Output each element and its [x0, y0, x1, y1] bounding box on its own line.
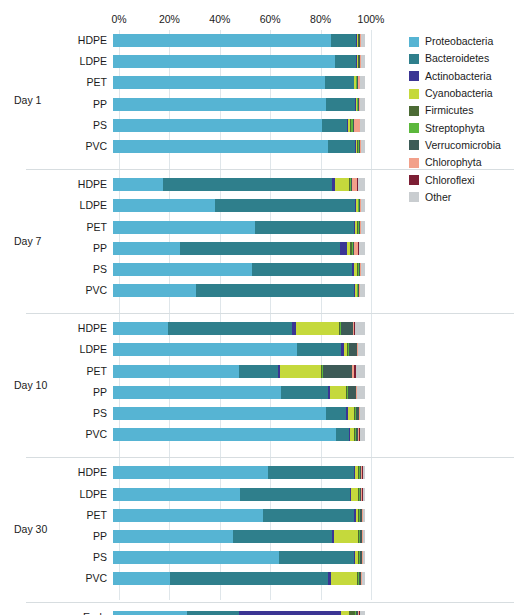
- chart-row: HDPE: [0, 322, 522, 335]
- bar-segment: [113, 407, 326, 420]
- row-label: PET: [0, 76, 113, 89]
- x-tick-label: 60%: [260, 13, 281, 25]
- chart-row: PET: [0, 365, 522, 378]
- bar-segment: [240, 488, 350, 501]
- bar-segment: [341, 611, 349, 615]
- bar-segment: [297, 343, 341, 356]
- legend-label: Verrucomicrobia: [425, 140, 501, 151]
- stacked-bar: [113, 242, 365, 255]
- bar-segment: [326, 407, 346, 420]
- chart-group: HDPELDPEPETPPPSPVCDay 10: [0, 313, 522, 457]
- legend-label: Other: [425, 192, 451, 203]
- bar-segment: [113, 611, 187, 615]
- bar-segment: [113, 428, 336, 441]
- legend-item[interactable]: Verrucomicrobia: [409, 137, 519, 154]
- legend-item[interactable]: Actinobacteria: [409, 68, 519, 85]
- bar-segment: [187, 611, 239, 615]
- bar-segment: [363, 530, 365, 543]
- bar-segment: [356, 365, 365, 378]
- bar-segment: [341, 322, 353, 335]
- stacked-bar: [113, 386, 365, 399]
- legend-swatch-icon: [409, 89, 419, 99]
- legend-item[interactable]: Firmicutes: [409, 102, 519, 119]
- row-label: PVC: [0, 428, 113, 441]
- stacked-bar: [113, 365, 365, 378]
- bar-segment: [239, 365, 278, 378]
- bar-segment: [323, 365, 352, 378]
- row-label: PVC: [0, 572, 113, 585]
- row-label: PET: [0, 365, 113, 378]
- bar-segment: [113, 140, 328, 153]
- bar-segment: [361, 221, 365, 234]
- bar-segment: [196, 284, 354, 297]
- bar-segment: [326, 98, 355, 111]
- x-axis: 0%20%40%60%80%100%: [0, 0, 522, 30]
- chart-row: PS: [0, 263, 522, 276]
- x-tick-label: 40%: [209, 13, 230, 25]
- stacked-bar: [113, 34, 365, 47]
- legend-swatch-icon: [409, 106, 419, 116]
- chart-row: HDPE: [0, 466, 522, 479]
- bar-segment: [322, 119, 347, 132]
- bar-segment: [113, 98, 326, 111]
- bar-segment: [233, 530, 333, 543]
- legend-item[interactable]: Other: [409, 189, 519, 206]
- row-label: LDPE: [0, 343, 113, 356]
- chart-legend: ProteobacteriaBacteroidetesActinobacteri…: [409, 33, 519, 206]
- chart-row: PP: [0, 530, 522, 543]
- bar-segment: [113, 242, 180, 255]
- legend-item[interactable]: Chlorophyta: [409, 154, 519, 171]
- legend-swatch-icon: [409, 37, 419, 47]
- bar-segment: [113, 284, 196, 297]
- stacked-bar: [113, 407, 365, 420]
- bar-segment: [334, 530, 358, 543]
- bar-segment: [330, 386, 346, 399]
- x-tick-label: 80%: [310, 13, 331, 25]
- chart-row: PP: [0, 386, 522, 399]
- bar-segment: [113, 221, 255, 234]
- chart-row: PP: [0, 242, 522, 255]
- bar-segment: [268, 466, 354, 479]
- chart-row: Early: [0, 611, 522, 615]
- bar-segment: [170, 572, 329, 585]
- stacked-bar: [113, 140, 365, 153]
- bar-segment: [340, 242, 348, 255]
- legend-label: Firmicutes: [425, 105, 473, 116]
- bar-segment: [360, 428, 365, 441]
- row-label: HDPE: [0, 322, 113, 335]
- row-label: PS: [0, 407, 113, 420]
- bar-segment: [335, 55, 356, 68]
- legend-item[interactable]: Chloroflexi: [409, 171, 519, 188]
- row-label: PVC: [0, 284, 113, 297]
- stacked-bar: [113, 551, 365, 564]
- legend-item[interactable]: Cyanobacteria: [409, 85, 519, 102]
- legend-label: Bacteroidetes: [425, 53, 489, 64]
- bar-segment: [361, 199, 365, 212]
- stacked-bar: [113, 428, 365, 441]
- bar-segment: [360, 284, 365, 297]
- bar-segment: [252, 263, 353, 276]
- legend-item[interactable]: Proteobacteria: [409, 33, 519, 50]
- bar-segment: [358, 178, 365, 191]
- bar-segment: [363, 509, 365, 522]
- bar-segment: [361, 55, 365, 68]
- bar-segment: [239, 611, 341, 615]
- bar-segment: [263, 509, 354, 522]
- stacked-bar: [113, 178, 365, 191]
- group-label: Day 1: [14, 94, 41, 106]
- bar-segment: [360, 98, 365, 111]
- chart-row: LDPE: [0, 343, 522, 356]
- legend-item[interactable]: Bacteroidetes: [409, 50, 519, 67]
- chart-group: HDPELDPEPETPPPSPVCDay 30: [0, 457, 522, 601]
- bar-segment: [351, 488, 358, 501]
- bar-segment: [180, 242, 340, 255]
- row-label: LDPE: [0, 488, 113, 501]
- bar-segment: [113, 55, 335, 68]
- group-separator: [26, 457, 514, 458]
- stacked-bar: [113, 530, 365, 543]
- legend-item[interactable]: Streptophyta: [409, 119, 519, 136]
- stacked-bar: [113, 488, 365, 501]
- bar-segment: [113, 263, 252, 276]
- bar-segment: [168, 322, 291, 335]
- chart-row: PS: [0, 407, 522, 420]
